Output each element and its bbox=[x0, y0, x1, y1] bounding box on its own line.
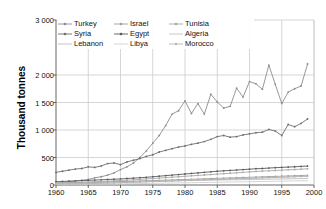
data-point bbox=[300, 123, 302, 125]
data-point bbox=[133, 181, 135, 183]
legend-label: Lebanon bbox=[74, 39, 103, 49]
data-point bbox=[139, 177, 141, 179]
series-line-syria bbox=[56, 119, 308, 172]
data-point bbox=[184, 100, 186, 102]
data-point bbox=[152, 142, 154, 144]
data-point bbox=[300, 176, 302, 178]
data-point bbox=[229, 105, 231, 107]
data-point bbox=[178, 110, 180, 112]
data-point bbox=[165, 125, 167, 127]
data-point bbox=[94, 167, 96, 169]
data-point bbox=[268, 177, 270, 179]
data-point bbox=[113, 162, 115, 164]
data-point bbox=[249, 171, 251, 173]
legend-marker-morocco bbox=[169, 40, 183, 48]
data-point bbox=[165, 180, 167, 182]
data-point bbox=[158, 180, 160, 182]
data-point bbox=[210, 171, 212, 173]
data-point bbox=[74, 183, 76, 185]
data-point bbox=[307, 168, 309, 170]
data-point bbox=[197, 142, 199, 144]
data-point bbox=[191, 179, 193, 181]
data-point bbox=[184, 175, 186, 177]
data-point bbox=[262, 170, 264, 172]
data-point bbox=[184, 145, 186, 147]
legend-marker-egypt bbox=[114, 30, 128, 38]
legend-label: Algeria bbox=[185, 29, 208, 39]
data-point bbox=[100, 179, 102, 181]
data-point bbox=[133, 179, 135, 181]
legend-item-israel: Israel bbox=[114, 19, 169, 29]
data-point bbox=[294, 169, 296, 171]
data-point bbox=[216, 136, 218, 138]
chart-legend: TurkeyIsraelTunisiaSyriaEgyptAlgeriaLeba… bbox=[58, 19, 254, 49]
data-point bbox=[216, 170, 218, 172]
data-point bbox=[300, 85, 302, 87]
data-point bbox=[81, 183, 83, 185]
data-point bbox=[274, 167, 276, 169]
data-point bbox=[203, 141, 205, 143]
data-point bbox=[274, 177, 276, 179]
data-point bbox=[120, 164, 122, 166]
data-point bbox=[100, 182, 102, 184]
legend-label: Morocco bbox=[185, 39, 214, 49]
data-point bbox=[236, 87, 238, 89]
data-point bbox=[262, 131, 264, 133]
data-point bbox=[210, 174, 212, 176]
legend-item-turkey: Turkey bbox=[58, 19, 114, 29]
data-point bbox=[262, 88, 264, 90]
data-point bbox=[68, 180, 70, 182]
line-chart: Thousand tonnes 05001 0001 5002 0003 000… bbox=[0, 0, 326, 209]
data-point bbox=[223, 135, 225, 137]
data-point bbox=[281, 135, 283, 137]
data-point bbox=[68, 183, 70, 185]
data-point bbox=[255, 171, 257, 173]
data-point bbox=[236, 178, 238, 180]
data-point bbox=[223, 178, 225, 180]
data-point bbox=[300, 168, 302, 170]
data-point bbox=[223, 170, 225, 172]
data-point bbox=[268, 167, 270, 169]
data-point bbox=[133, 162, 135, 164]
data-point bbox=[287, 169, 289, 171]
data-point bbox=[74, 168, 76, 170]
data-point bbox=[120, 178, 122, 180]
data-point bbox=[139, 178, 141, 180]
data-point bbox=[100, 165, 102, 167]
legend-item-tunisia: Tunisia bbox=[169, 19, 231, 29]
data-point bbox=[203, 179, 205, 181]
data-point bbox=[158, 175, 160, 177]
legend-item-egypt: Egypt bbox=[114, 29, 169, 39]
data-point bbox=[74, 180, 76, 182]
series-line-turkey bbox=[56, 64, 308, 183]
data-point bbox=[126, 178, 128, 180]
data-point bbox=[274, 130, 276, 132]
data-point bbox=[229, 178, 231, 180]
data-point bbox=[158, 135, 160, 137]
data-point bbox=[229, 170, 231, 172]
data-point bbox=[113, 172, 115, 174]
data-point bbox=[191, 173, 193, 175]
data-point bbox=[268, 64, 270, 66]
data-point bbox=[242, 96, 244, 98]
data-point bbox=[171, 174, 173, 176]
data-point bbox=[165, 177, 167, 179]
data-point bbox=[197, 172, 199, 174]
data-point bbox=[184, 173, 186, 175]
data-point bbox=[249, 133, 251, 135]
data-point bbox=[197, 103, 199, 105]
data-point bbox=[307, 63, 309, 65]
x-axis-tick-label: 2000 bbox=[294, 188, 326, 197]
data-point bbox=[281, 176, 283, 178]
data-point bbox=[113, 182, 115, 184]
data-point bbox=[152, 176, 154, 178]
data-point bbox=[145, 156, 147, 158]
data-point bbox=[107, 174, 109, 176]
legend-marker-syria bbox=[58, 30, 72, 38]
data-point bbox=[68, 169, 70, 171]
data-point bbox=[242, 171, 244, 173]
data-point bbox=[87, 181, 89, 183]
data-point bbox=[203, 171, 205, 173]
legend-item-algeria: Algeria bbox=[169, 29, 231, 39]
data-point bbox=[294, 176, 296, 178]
